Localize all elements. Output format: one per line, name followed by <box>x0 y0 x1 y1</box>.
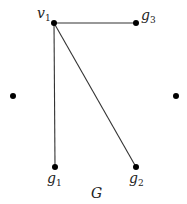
edge-v1-g2 <box>54 23 136 167</box>
label-v1: v1 <box>37 5 51 23</box>
node-left-isolated <box>10 93 16 99</box>
node-g3 <box>133 20 139 26</box>
edges <box>54 23 136 167</box>
label-g1: g1 <box>47 170 62 188</box>
edge-v1-g1 <box>54 23 55 167</box>
node-v1 <box>51 20 57 26</box>
label-g2: g2 <box>129 170 144 188</box>
graph-diagram: v1 g3 g1 g2 G <box>0 0 187 204</box>
label-g3: g3 <box>141 7 156 25</box>
node-right-isolated <box>173 93 179 99</box>
graph-caption: G <box>91 185 102 201</box>
